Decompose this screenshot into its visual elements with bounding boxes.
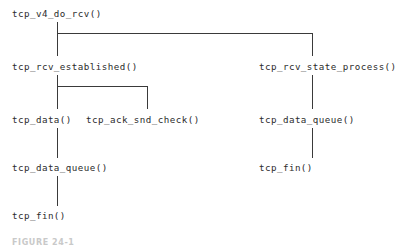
node-tcp-ack-snd-check: tcp_ack_snd_check() [86, 114, 200, 125]
edge-tcp-v4-do-rcv-to-tcp-rcv-state-process-horizontal [57, 33, 313, 34]
node-tcp-v4-do-rcv: tcp_v4_do_rcv() [12, 8, 102, 19]
node-tcp-data-queue-right: tcp_data_queue() [259, 114, 355, 125]
node-tcp-data: tcp_data() [12, 114, 72, 125]
edge-tcp-rcv-established-to-tcp-data [57, 75, 58, 109]
diagram-canvas: tcp_v4_do_rcv() tcp_rcv_established() tc… [0, 0, 416, 247]
edge-tcp-data-queue-right-to-tcp-fin-right [312, 128, 313, 158]
edge-tcp-rcv-established-to-tcp-ack-snd-check-vertical [147, 86, 148, 109]
node-tcp-fin-right: tcp_fin() [259, 162, 313, 173]
edge-tcp-data-to-tcp-data-queue [57, 128, 58, 158]
edge-tcp-rcv-established-to-tcp-ack-snd-check-horizontal [57, 86, 148, 87]
edge-tcp-rcv-state-process-to-tcp-data-queue [312, 75, 313, 109]
edge-tcp-data-queue-to-tcp-fin [57, 176, 58, 206]
edge-tcp-v4-do-rcv-to-tcp-rcv-state-process-vertical [312, 33, 313, 56]
node-tcp-fin-left: tcp_fin() [12, 210, 66, 221]
figure-caption: FIGURE 24-1 [12, 238, 108, 245]
edge-tcp-v4-do-rcv-to-tcp-rcv-established [57, 22, 58, 56]
node-tcp-data-queue-left: tcp_data_queue() [12, 162, 108, 173]
node-tcp-rcv-state-process: tcp_rcv_state_process() [259, 61, 397, 72]
node-tcp-rcv-established: tcp_rcv_established() [12, 61, 138, 72]
